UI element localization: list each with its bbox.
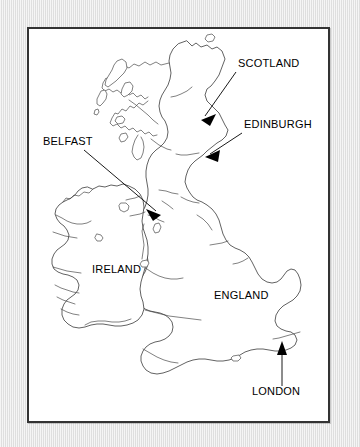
label-belfast: BELFAST <box>43 135 93 147</box>
annotation-england[interactable]: ENGLAND <box>214 289 269 301</box>
map-frame-panel: SCOTLAND EDINBURGH BELFAST IRELAND <box>27 27 330 423</box>
kintyre-peninsula <box>132 135 144 160</box>
annotation-ireland[interactable]: IRELAND <box>92 263 141 275</box>
screenshot-stage: SCOTLAND EDINBURGH BELFAST IRELAND <box>0 0 360 447</box>
great-britain-coastline <box>136 41 301 374</box>
label-edinburgh: EDINBURGH <box>244 118 312 130</box>
label-scotland: SCOTLAND <box>238 57 300 69</box>
label-england: ENGLAND <box>214 289 269 301</box>
label-london: LONDON <box>252 385 300 397</box>
isle-of-mull <box>115 116 125 124</box>
label-ireland: IRELAND <box>92 263 141 275</box>
ireland-landmass <box>52 184 148 328</box>
outer-hebrides-uist <box>97 90 107 106</box>
outer-hebrides-barra <box>94 109 99 115</box>
isle-of-skye <box>121 82 133 97</box>
outer-hebrides-lewis-harris <box>105 59 127 87</box>
british-isles-outline-map: SCOTLAND EDINBURGH BELFAST IRELAND <box>29 29 328 421</box>
loch-linnhe <box>129 100 158 124</box>
ireland-coastline <box>52 184 148 328</box>
orkney-islands <box>205 34 215 42</box>
islay-jura <box>119 133 128 142</box>
edinburgh-arrowhead <box>205 150 220 162</box>
